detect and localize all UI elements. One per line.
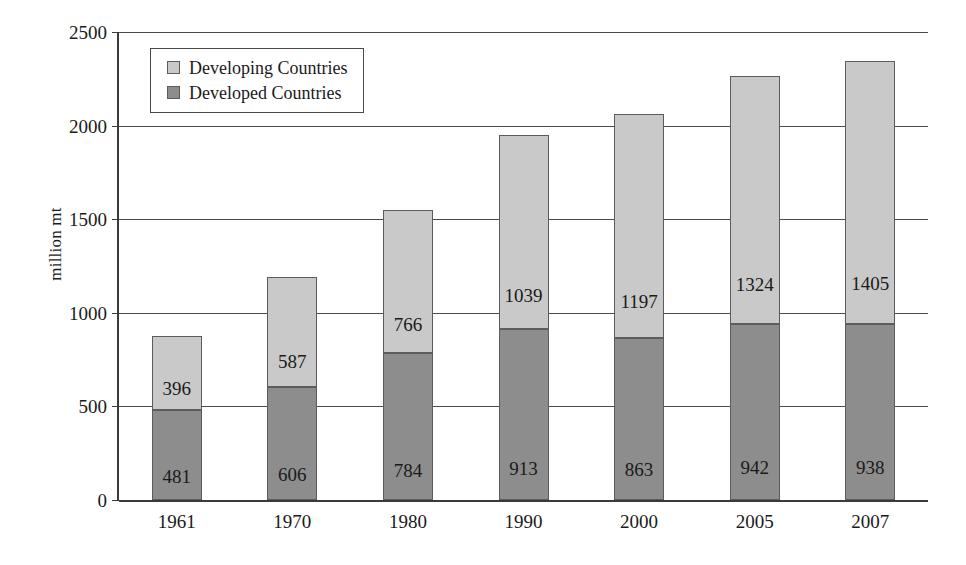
bar-value-label: 913 [509, 459, 538, 478]
bar-value-label: 1197 [620, 292, 657, 311]
bar-value-label: 942 [740, 458, 769, 477]
bar-segment-1990-developed-countries[interactable]: 913 [499, 329, 549, 500]
bar-group-1980[interactable]: 7847661980 [383, 32, 433, 500]
y-axis-label-1500: 1500 [69, 210, 107, 229]
legend-label-developing: Developing Countries [189, 59, 347, 77]
bar-value-label: 784 [394, 461, 423, 480]
bar-value-label: 766 [394, 315, 423, 334]
bar-segment-1970-developed-countries[interactable]: 606 [267, 387, 317, 500]
y-axis-tick-0 [112, 500, 119, 501]
y-axis-tick-1500 [112, 219, 119, 220]
legend-swatch-developed [167, 86, 180, 99]
bar-value-label: 1039 [505, 286, 543, 305]
y-axis-label-2000: 2000 [69, 116, 107, 135]
bar-segment-1961-developed-countries[interactable]: 481 [152, 410, 202, 500]
y-axis-tick-500 [112, 406, 119, 407]
y-axis-label-1000: 1000 [69, 303, 107, 322]
bar-segment-1980-developing-countries[interactable]: 766 [383, 210, 433, 353]
y-axis-label-2500: 2500 [69, 23, 107, 42]
bar-segment-2007-developing-countries[interactable]: 1405 [845, 61, 895, 324]
bar-value-label: 606 [278, 465, 307, 484]
y-axis-tick-2500 [112, 32, 119, 33]
y-axis-label-0: 0 [98, 491, 108, 510]
bar-segment-2005-developing-countries[interactable]: 1324 [730, 76, 780, 324]
bar-group-1990[interactable]: 91310391990 [499, 32, 549, 500]
legend-label-developed: Developed Countries [189, 84, 341, 102]
bar-segment-2000-developed-countries[interactable]: 863 [614, 338, 664, 500]
bar-value-label: 587 [278, 352, 307, 371]
bar-value-label: 481 [163, 467, 192, 486]
x-axis-label-1961: 1961 [158, 511, 196, 533]
chart-legend: Developing Countries Developed Countries [150, 48, 364, 113]
bar-group-2007[interactable]: 93814052007 [845, 32, 895, 500]
bar-group-2000[interactable]: 86311972000 [614, 32, 664, 500]
y-axis-tick-1000 [112, 313, 119, 314]
x-axis-label-2000: 2000 [620, 511, 658, 533]
gridline-0 [119, 500, 928, 502]
bar-segment-2000-developing-countries[interactable]: 1197 [614, 114, 664, 338]
x-axis-label-1990: 1990 [505, 511, 543, 533]
bar-value-label: 1324 [736, 275, 774, 294]
y-axis-tick-2000 [112, 126, 119, 127]
bar-group-2005[interactable]: 94213242005 [730, 32, 780, 500]
bar-value-label: 863 [625, 460, 654, 479]
legend-item-developing: Developing Countries [167, 55, 347, 80]
x-axis-label-2005: 2005 [736, 511, 774, 533]
bar-segment-2007-developed-countries[interactable]: 938 [845, 324, 895, 500]
x-axis-label-1970: 1970 [273, 511, 311, 533]
legend-item-developed: Developed Countries [167, 80, 347, 105]
x-axis-label-2007: 2007 [851, 511, 889, 533]
bar-segment-1970-developing-countries[interactable]: 587 [267, 277, 317, 387]
bar-segment-1980-developed-countries[interactable]: 784 [383, 353, 433, 500]
chart-figure: million mt 05001000150020002500481396196… [0, 0, 966, 565]
bar-segment-1990-developing-countries[interactable]: 1039 [499, 135, 549, 330]
bar-segment-2005-developed-countries[interactable]: 942 [730, 324, 780, 500]
bar-value-label: 1405 [851, 274, 889, 293]
y-axis-title: million mt [46, 164, 66, 324]
x-axis-label-1980: 1980 [389, 511, 427, 533]
bar-value-label: 938 [856, 458, 885, 477]
bar-segment-1961-developing-countries[interactable]: 396 [152, 336, 202, 410]
y-axis-label-500: 500 [79, 397, 108, 416]
legend-swatch-developing [167, 61, 180, 74]
bar-value-label: 396 [163, 379, 192, 398]
